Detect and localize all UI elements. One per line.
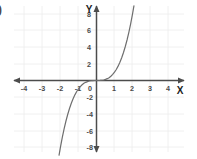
y-tick-label: 6 bbox=[87, 26, 91, 35]
y-tick-label: -2 bbox=[87, 93, 93, 102]
x-axis-label: X bbox=[177, 85, 184, 96]
axis-lines bbox=[14, 6, 184, 152]
x-tick-label: 4 bbox=[166, 84, 170, 93]
x-tick-label: -2 bbox=[57, 84, 63, 93]
x-axis-tick-labels: -4 -3 -2 -1 0 1 2 3 4 bbox=[21, 84, 170, 93]
y-tick-label: -8 bbox=[87, 143, 93, 152]
y-tick-label: -6 bbox=[87, 127, 93, 136]
x-tick-label: 3 bbox=[148, 84, 152, 93]
grid-lines bbox=[14, 6, 184, 152]
graph-screenshot: ) bbox=[0, 0, 197, 159]
y-tick-label: -4 bbox=[87, 110, 93, 119]
coordinate-plane: -4 -3 -2 -1 0 1 2 3 4 8 6 4 2 -2 -4 -6 -… bbox=[0, 0, 197, 159]
y-axis-label: Y bbox=[86, 4, 93, 15]
x-tick-label: 1 bbox=[112, 84, 116, 93]
x-tick-label: 2 bbox=[130, 84, 134, 93]
y-tick-label: 4 bbox=[87, 43, 91, 52]
origin-label: 0 bbox=[88, 84, 92, 93]
x-tick-label: -3 bbox=[39, 84, 45, 93]
x-tick-label: -4 bbox=[21, 84, 27, 93]
y-tick-label: 2 bbox=[87, 60, 91, 69]
